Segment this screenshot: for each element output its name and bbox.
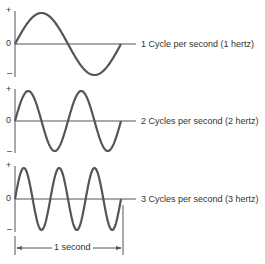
arrow-left-icon xyxy=(16,246,22,250)
plus-sign-1: + xyxy=(6,5,11,15)
plus-sign-2: + xyxy=(6,84,11,94)
arrow-right-icon xyxy=(116,246,122,250)
minus-sign-3: – xyxy=(7,224,12,234)
panel-2-label: 2 Cycles per second (2 hertz) xyxy=(141,116,259,126)
zero-label-2: 0 xyxy=(6,115,11,125)
zero-label-1: 0 xyxy=(6,38,11,48)
zero-label-3: 0 xyxy=(6,193,11,203)
minus-sign-2: – xyxy=(7,146,12,156)
plus-sign-3: + xyxy=(6,160,11,170)
panel-3-label: 3 Cycles per second (3 hertz) xyxy=(141,194,259,204)
duration-label: 1 second xyxy=(52,242,93,252)
frequency-diagram: + 0 – 1 Cycle per second (1 hertz) + 0 –… xyxy=(0,0,265,264)
panel-1-label: 1 Cycle per second (1 hertz) xyxy=(141,39,254,49)
minus-sign-1: – xyxy=(7,68,12,78)
